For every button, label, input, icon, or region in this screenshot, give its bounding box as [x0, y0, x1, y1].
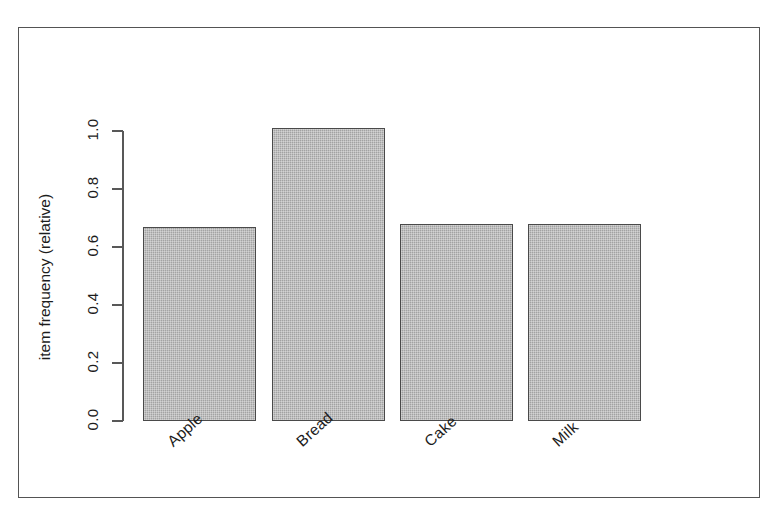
- bar-apple: [143, 227, 256, 421]
- y-axis-tick-label: 1.0: [84, 100, 101, 160]
- bar-bread: [272, 128, 385, 421]
- bar-cake: [400, 224, 513, 421]
- y-axis-line: [122, 131, 124, 421]
- y-axis-tick-label: 0.4: [84, 274, 101, 334]
- y-axis-tick-label: 0.6: [84, 216, 101, 276]
- bar-milk: [528, 224, 641, 421]
- chart-screenshot: item frequency (relative) 0.00.20.40.60.…: [0, 0, 778, 530]
- y-axis-tick-label: 0.2: [84, 332, 101, 392]
- y-axis-tick: [112, 304, 123, 306]
- y-axis-title: item frequency (relative): [36, 167, 54, 387]
- y-axis-tick: [112, 188, 123, 190]
- y-axis-tick-label: 0.0: [84, 390, 101, 450]
- y-axis-tick: [112, 130, 123, 132]
- y-axis-tick: [112, 420, 123, 422]
- y-axis-tick: [112, 246, 123, 248]
- x-axis-tick-label-milk: Milk: [549, 418, 582, 450]
- y-axis-tick-label: 0.8: [84, 158, 101, 218]
- y-axis-tick: [112, 362, 123, 364]
- plot-area: item frequency (relative) 0.00.20.40.60.…: [0, 0, 778, 530]
